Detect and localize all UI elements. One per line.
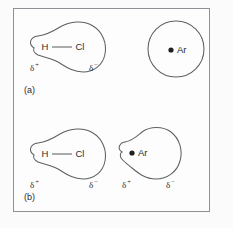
argon-outline-a bbox=[148, 21, 204, 77]
panel-label-b: (b) bbox=[24, 192, 35, 202]
argon-atom-b: Ar δ + δ − bbox=[119, 128, 181, 191]
atom-label-ar-b: Ar bbox=[138, 147, 148, 158]
panel-label-a: (a) bbox=[24, 85, 35, 95]
atom-label-cl-a: Cl bbox=[76, 41, 85, 52]
argon-nucleus-dot-a bbox=[168, 47, 173, 52]
figure-root: H Cl δ + δ − Ar (a) H Cl bbox=[0, 0, 233, 228]
charge-delta-plus-ar-b: δ bbox=[122, 180, 126, 190]
charge-sign-plus-hcl-a: + bbox=[35, 61, 39, 68]
charge-sign-minus-hcl-a: − bbox=[94, 61, 98, 68]
charge-delta-minus-hcl-b: δ bbox=[89, 180, 93, 190]
atom-label-h-a: H bbox=[42, 41, 49, 52]
argon-nucleus-dot-b bbox=[129, 150, 134, 155]
argon-outline-b bbox=[119, 128, 181, 180]
charge-sign-plus-ar-b: + bbox=[127, 178, 131, 185]
charge-sign-minus-hcl-b: − bbox=[94, 178, 98, 185]
atom-label-cl-b: Cl bbox=[76, 148, 85, 159]
charge-sign-minus-ar-b: − bbox=[171, 178, 175, 185]
charge-sign-plus-hcl-b: + bbox=[35, 178, 39, 185]
hcl-molecule-a: H Cl δ + δ − bbox=[30, 22, 106, 73]
atom-label-ar-a: Ar bbox=[177, 44, 187, 55]
charge-delta-plus-hcl-b: δ bbox=[30, 180, 34, 190]
atom-label-h-b: H bbox=[42, 148, 49, 159]
charge-delta-minus-hcl-a: δ bbox=[89, 63, 93, 73]
panel-a: H Cl δ + δ − Ar (a) bbox=[24, 21, 204, 95]
charge-delta-plus-hcl-a: δ bbox=[30, 63, 34, 73]
hcl-molecule-b: H Cl δ + δ − bbox=[30, 129, 106, 190]
panel-b: H Cl δ + δ − Ar δ + δ − (b) bbox=[24, 128, 181, 203]
charge-delta-minus-ar-b: δ bbox=[166, 180, 170, 190]
argon-atom-a: Ar bbox=[148, 21, 204, 77]
figure-illustration: H Cl δ + δ − Ar (a) H Cl bbox=[0, 0, 233, 228]
